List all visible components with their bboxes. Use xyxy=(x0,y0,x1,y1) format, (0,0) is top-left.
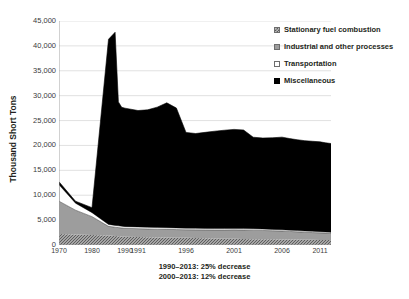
chart-canvas: Thousand Short Tons 45,00040,00035,00030… xyxy=(0,0,409,299)
footer-cut-text xyxy=(14,290,274,298)
x-axis-tick-label: 2001 xyxy=(226,247,242,254)
x-axis-tick-label: 1991 xyxy=(130,247,146,254)
legend-item[interactable]: Stationary fuel combustion xyxy=(274,22,409,37)
chart-annotations: 1990–2013: 25% decrease 2000–2013: 12% d… xyxy=(0,262,409,282)
y-axis-tick-label: 35,000 xyxy=(14,67,56,75)
chart-legend: Stationary fuel combustionIndustrial and… xyxy=(274,22,409,90)
legend-item[interactable]: Miscellaneous xyxy=(274,73,409,88)
legend-item-label: Stationary fuel combustion xyxy=(284,25,381,34)
y-axis-tick-label: 30,000 xyxy=(14,92,56,100)
y-axis-tick-label: 40,000 xyxy=(14,42,56,50)
annotation-line-2: 2000–2013: 12% decrease xyxy=(0,272,409,282)
x-axis-tick-label: 1996 xyxy=(178,247,194,254)
y-axis-tick-label: 15,000 xyxy=(14,166,56,174)
legend-swatch-gray-icon xyxy=(274,44,280,50)
x-axis-tick-labels: 19701980199019911996200120062011 xyxy=(0,247,409,259)
y-axis-tick-label: 45,000 xyxy=(14,17,56,25)
y-axis-tick-label: 20,000 xyxy=(14,141,56,149)
x-axis-tick-label: 1970 xyxy=(51,247,67,254)
legend-swatch-black-icon xyxy=(274,78,280,84)
x-axis-tick-label: 1980 xyxy=(84,247,100,254)
y-axis-tick-label: 10,000 xyxy=(14,191,56,199)
annotation-line-1: 1990–2013: 25% decrease xyxy=(0,262,409,272)
x-axis-tick-label: 2006 xyxy=(274,247,290,254)
legend-item[interactable]: Transportation xyxy=(274,56,409,71)
legend-item-label: Miscellaneous xyxy=(284,76,335,85)
legend-item-label: Transportation xyxy=(284,59,337,68)
legend-item[interactable]: Industrial and other processes xyxy=(274,39,409,54)
legend-swatch-hatch-icon xyxy=(274,27,280,33)
legend-swatch-white-icon xyxy=(274,61,280,67)
y-axis-tick-label: 25,000 xyxy=(14,117,56,125)
x-axis-tick-label: 2011 xyxy=(312,247,327,254)
y-axis-tick-label: 5,000 xyxy=(14,216,56,224)
legend-item-label: Industrial and other processes xyxy=(284,42,393,51)
